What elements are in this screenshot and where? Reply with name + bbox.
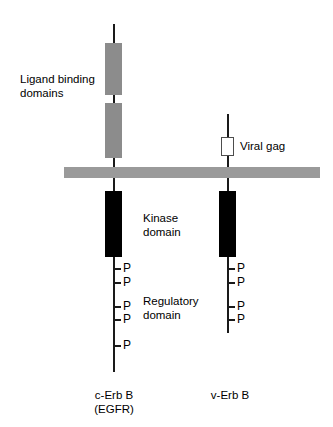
phospho-label: P	[123, 262, 131, 275]
phospho-tick-icon	[114, 282, 121, 284]
phospho-label: P	[237, 313, 245, 326]
figure-canvas: P P P P P c-Erb B(EGFR) P	[0, 0, 333, 427]
phospho-tick-icon	[114, 268, 121, 270]
phospho-tick-icon	[228, 268, 235, 270]
phospho-tick-icon	[228, 306, 235, 308]
viral-gag-domain-box	[221, 137, 234, 156]
viral-gag-label: Viral gag	[240, 139, 320, 153]
ligand-binding-domains-label: Ligand binding domains	[20, 72, 106, 100]
phospho-tick-icon	[114, 306, 121, 308]
ligand-binding-domain-2-box	[105, 103, 122, 158]
phospho-tick-icon	[114, 319, 121, 321]
regulatory-domain-label: Regulatory domain	[143, 294, 213, 322]
kinase-domain-box	[105, 191, 122, 257]
phospho-label: P	[123, 339, 131, 352]
protein-name-line1: c-Erb B	[95, 389, 133, 401]
phospho-tick-icon	[228, 282, 235, 284]
kinase-domain-box	[219, 191, 236, 257]
phospho-tick-icon	[228, 319, 235, 321]
phospho-label: P	[237, 262, 245, 275]
phospho-label: P	[123, 313, 131, 326]
protein-name-line1: v-Erb B	[211, 389, 249, 401]
ligand-binding-domain-1-box	[105, 43, 122, 95]
plasma-membrane-bar	[64, 167, 320, 178]
phospho-tick-icon	[114, 345, 121, 347]
phospho-label: P	[237, 276, 245, 289]
protein-name-line2: (EGFR)	[94, 403, 134, 415]
kinase-domain-label: Kinase domain	[143, 211, 213, 239]
protein-name-c-erb-b: c-Erb B(EGFR)	[64, 388, 164, 416]
phospho-label: P	[123, 276, 131, 289]
protein-name-v-erb-b: v-Erb B	[180, 388, 280, 402]
